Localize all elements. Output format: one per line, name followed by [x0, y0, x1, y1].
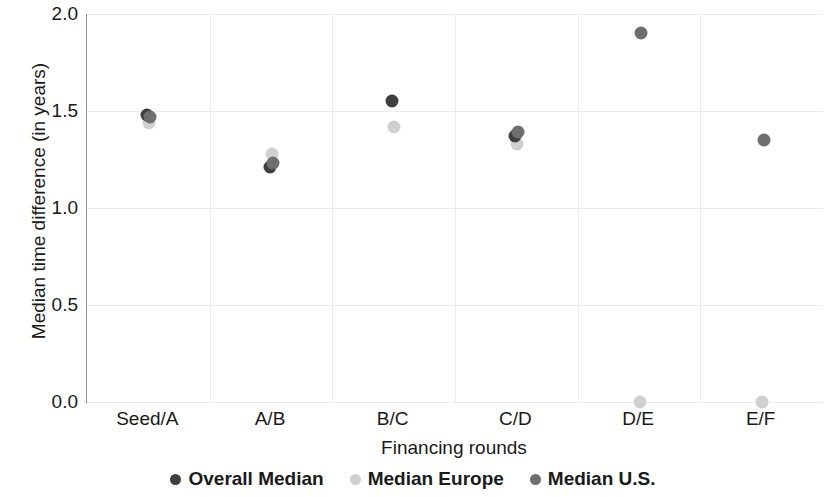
- legend-marker-dot-icon: [350, 474, 361, 485]
- legend-item-label: Median Europe: [368, 468, 504, 490]
- data-point: [144, 110, 157, 123]
- x-axis-tick-label: Seed/A: [77, 408, 217, 430]
- gridline-vertical: [210, 14, 211, 402]
- data-point: [635, 27, 648, 40]
- y-axis-tick-labels: 0.00.51.01.52.0: [26, 0, 78, 497]
- y-axis-tick-label: 1.5: [26, 100, 78, 122]
- data-point: [757, 134, 770, 147]
- x-axis-title: Financing rounds: [86, 437, 822, 459]
- data-point: [388, 120, 401, 133]
- y-axis-tick-label: 0.0: [26, 391, 78, 413]
- data-point: [386, 95, 399, 108]
- gridline-vertical: [700, 14, 701, 402]
- data-point: [633, 396, 646, 409]
- legend-item[interactable]: Overall Median: [170, 468, 323, 490]
- gridline-horizontal: [87, 402, 823, 403]
- y-axis-tick-label: 0.5: [26, 294, 78, 316]
- gridline-vertical: [455, 14, 456, 402]
- data-point: [756, 396, 769, 409]
- chart-legend: Overall MedianMedian EuropeMedian U.S.: [0, 468, 826, 490]
- scatter-chart-figure: Median time difference (in years) 0.00.5…: [0, 0, 826, 497]
- x-axis-tick-label: A/B: [200, 408, 340, 430]
- plot-area: [86, 14, 823, 403]
- legend-item-label: Median U.S.: [548, 468, 656, 490]
- gridline-vertical: [578, 14, 579, 402]
- x-axis-tick-label: E/F: [691, 408, 826, 430]
- x-axis-tick-label: C/D: [445, 408, 585, 430]
- data-point: [512, 126, 525, 139]
- x-axis-tick-label: D/E: [568, 408, 708, 430]
- x-axis-tick-label: B/C: [323, 408, 463, 430]
- legend-marker-dot-icon: [170, 474, 181, 485]
- data-point: [267, 157, 280, 170]
- plot-inner: [87, 14, 823, 402]
- gridline-vertical: [332, 14, 333, 402]
- legend-item[interactable]: Median Europe: [350, 468, 504, 490]
- y-axis-tick-label: 2.0: [26, 3, 78, 25]
- legend-marker-dot-icon: [530, 474, 541, 485]
- legend-item-label: Overall Median: [188, 468, 323, 490]
- legend-item[interactable]: Median U.S.: [530, 468, 656, 490]
- y-axis-tick-label: 1.0: [26, 197, 78, 219]
